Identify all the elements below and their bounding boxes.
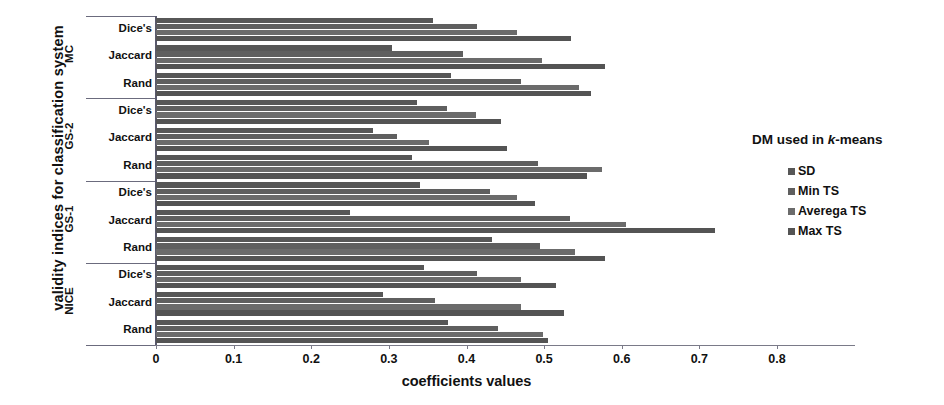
bar-gs-1-rand-mints <box>156 243 540 248</box>
legend-swatch-icon <box>788 188 795 195</box>
bar-nice-jaccard-maxts <box>156 310 564 315</box>
bar-gs-2-jaccard-averegats <box>156 140 429 145</box>
bar-mc-jaccard-mints <box>156 51 463 56</box>
x-tick-label: 0.2 <box>291 352 331 366</box>
bar-gs-2-rand-maxts <box>156 173 587 178</box>
bar-nice-jaccard-mints <box>156 298 435 303</box>
category-label-gs-1-jaccard: Jaccard <box>72 214 152 226</box>
legend-title-post: -means <box>835 132 882 147</box>
x-tick-label: 0.6 <box>602 352 642 366</box>
x-tick <box>699 345 700 349</box>
x-axis-title: coefficients values <box>156 373 777 389</box>
bar-nice-dices-maxts <box>156 283 556 288</box>
legend-item-max-ts: Max TS <box>788 224 942 238</box>
bar-gs-1-jaccard-mints <box>156 216 570 221</box>
x-tick-label: 0.7 <box>679 352 719 366</box>
bar-nice-dices-sd <box>156 265 424 270</box>
bar-gs-1-dices-averegats <box>156 195 517 200</box>
x-tick <box>544 345 545 349</box>
bar-gs-1-dices-sd <box>156 182 420 187</box>
group-separator <box>86 16 156 17</box>
category-label-gs-2-jaccard: Jaccard <box>72 131 152 143</box>
bar-gs-1-dices-maxts <box>156 201 535 206</box>
bar-mc-rand-sd <box>156 73 451 78</box>
category-label-mc-jaccard: Jaccard <box>72 49 152 61</box>
bar-nice-jaccard-averegats <box>156 304 521 309</box>
bar-mc-jaccard-maxts <box>156 64 605 69</box>
category-label-mc-rand: Rand <box>72 77 152 89</box>
bar-gs-2-jaccard-maxts <box>156 146 507 151</box>
bar-nice-rand-averegats <box>156 332 543 337</box>
bar-mc-rand-mints <box>156 79 521 84</box>
bar-gs-2-dices-averegats <box>156 112 476 117</box>
bar-gs-2-jaccard-sd <box>156 128 373 133</box>
legend-item-averega-ts: Averega TS <box>788 204 942 218</box>
legend-item-sd: SD <box>788 164 942 178</box>
x-tick <box>156 345 157 349</box>
bar-gs-2-dices-sd <box>156 100 417 105</box>
legend-swatch-icon <box>788 168 795 175</box>
group-separator <box>86 98 156 99</box>
bar-nice-jaccard-sd <box>156 292 383 297</box>
legend-item-label: SD <box>798 164 815 178</box>
x-axis-line <box>155 345 855 346</box>
category-label-gs-2-rand: Rand <box>72 159 152 171</box>
bar-chart-figure: validity indices for classification syst… <box>0 0 944 405</box>
x-tick <box>234 345 235 349</box>
bar-gs-2-rand-sd <box>156 155 412 160</box>
bar-gs-1-rand-maxts <box>156 256 605 261</box>
bar-mc-rand-maxts <box>156 91 591 96</box>
category-label-mc-dices: Dice's <box>72 22 152 34</box>
x-tick-label: 0.1 <box>214 352 254 366</box>
x-tick <box>622 345 623 349</box>
category-label-gs-1-dices: Dice's <box>72 186 152 198</box>
category-label-nice-dices: Dice's <box>72 268 152 280</box>
legend-items: SDMin TSAverega TSMax TS <box>752 164 942 238</box>
bar-gs-1-rand-sd <box>156 237 492 242</box>
legend: DM used in k-means SDMin TSAverega TSMax… <box>752 132 942 244</box>
category-label-gs-1-rand: Rand <box>72 241 152 253</box>
category-label-nice-rand: Rand <box>72 323 152 335</box>
bar-gs-1-jaccard-maxts <box>156 228 715 233</box>
bar-gs-2-dices-maxts <box>156 119 501 124</box>
x-tick <box>389 345 390 349</box>
legend-swatch-icon <box>788 208 795 215</box>
bar-gs-1-dices-mints <box>156 189 490 194</box>
bar-mc-dices-maxts <box>156 36 571 41</box>
legend-title-pre: DM used in <box>752 132 828 147</box>
category-label-nice-jaccard: Jaccard <box>72 296 152 308</box>
group-separator <box>86 263 156 264</box>
x-tick-label: 0.5 <box>524 352 564 366</box>
bar-mc-dices-averegats <box>156 30 517 35</box>
plot-area <box>156 16 777 345</box>
bar-gs-2-rand-averegats <box>156 167 602 172</box>
group-separator <box>86 345 156 346</box>
x-tick-label: 0.4 <box>447 352 487 366</box>
legend-item-label: Averega TS <box>798 204 866 218</box>
bar-mc-jaccard-averegats <box>156 58 542 63</box>
bar-gs-1-jaccard-sd <box>156 210 350 215</box>
legend-item-label: Max TS <box>798 224 842 238</box>
legend-item-min-ts: Min TS <box>788 184 942 198</box>
y-axis-title: validity indices for classification syst… <box>50 18 66 318</box>
bar-mc-jaccard-sd <box>156 45 392 50</box>
bar-nice-dices-averegats <box>156 277 521 282</box>
legend-item-label: Min TS <box>798 184 839 198</box>
bar-nice-rand-mints <box>156 326 498 331</box>
legend-swatch-icon <box>788 228 795 235</box>
bar-mc-rand-averegats <box>156 85 579 90</box>
bar-nice-rand-maxts <box>156 338 548 343</box>
bar-nice-dices-mints <box>156 271 477 276</box>
bar-gs-1-jaccard-averegats <box>156 222 626 227</box>
x-tick <box>467 345 468 349</box>
bar-mc-dices-sd <box>156 18 433 23</box>
bar-gs-2-dices-mints <box>156 106 447 111</box>
bar-gs-2-rand-mints <box>156 161 538 166</box>
group-separator <box>86 181 156 182</box>
bar-gs-1-rand-averegats <box>156 249 575 254</box>
bar-nice-rand-sd <box>156 320 448 325</box>
category-label-gs-2-dices: Dice's <box>72 104 152 116</box>
x-tick-label: 0.3 <box>369 352 409 366</box>
bar-mc-dices-mints <box>156 24 477 29</box>
x-tick <box>311 345 312 349</box>
